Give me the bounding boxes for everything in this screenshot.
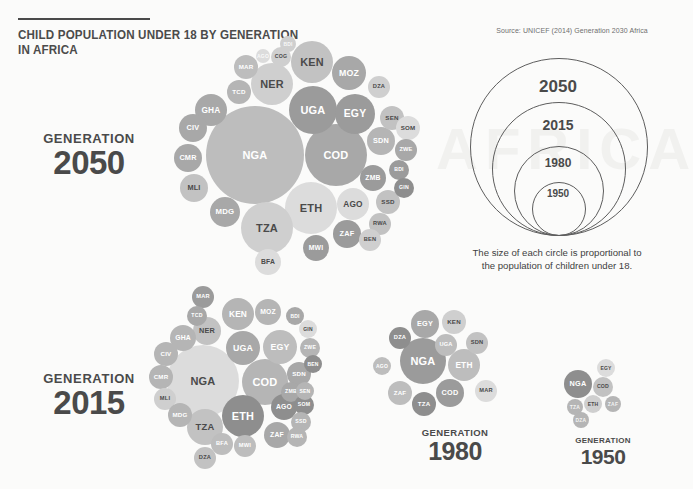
generation-label-2050: GENERATION 2050 <box>14 132 164 179</box>
country-code-label: ETH <box>588 402 599 407</box>
generation-year: 1980 <box>385 439 525 464</box>
country-code-label: ZAF <box>608 402 618 407</box>
country-bubble: NGA <box>564 370 592 398</box>
generation-label-1980: GENERATION 1980 <box>385 428 525 464</box>
country-code-label: TZA <box>570 405 580 410</box>
generation-label-1950: GENERATION 1950 <box>548 437 658 467</box>
generation-year: 2050 <box>14 146 164 179</box>
country-bubble: ZAF <box>605 396 621 412</box>
legend-ring-label: 1980 <box>508 156 608 170</box>
country-bubble: COD <box>593 377 613 397</box>
legend-caption: The size of each circle is proportional … <box>472 247 642 272</box>
country-code-label: EGY <box>600 366 611 371</box>
legend-ring-label: 2050 <box>508 77 608 97</box>
country-code-label: DZA <box>576 418 587 423</box>
legend-ring-label: 1950 <box>508 188 608 199</box>
size-legend: 2050201519801950 <box>463 58 653 238</box>
country-bubble: ETH <box>584 395 602 413</box>
generation-word: GENERATION <box>548 437 658 445</box>
generation-year: 2015 <box>14 386 164 419</box>
generation-label-2015: GENERATION 2015 <box>14 372 164 419</box>
legend-ring-label: 2015 <box>508 117 608 133</box>
generation-year: 1950 <box>548 446 658 467</box>
country-bubble: EGY <box>597 359 615 377</box>
country-code-label: COD <box>597 384 609 389</box>
country-bubble: DZA <box>573 412 589 428</box>
country-code-label: NGA <box>570 380 587 387</box>
